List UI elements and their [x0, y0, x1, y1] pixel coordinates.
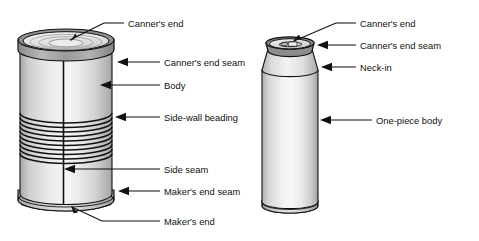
two-piece-beverage-can: Canner's end Canner's end seam Neck-in O… [262, 18, 443, 213]
label-makers-end-seam: Maker's end seam [164, 186, 240, 197]
label-side-seam: Side seam [164, 164, 208, 175]
leader-body-left [100, 81, 160, 89]
leader-canners-end-seam-right [317, 41, 356, 49]
label-canners-end-right: Canner's end [360, 18, 415, 29]
leader-one-piece-body [320, 116, 372, 124]
label-makers-end: Maker's end [164, 216, 215, 227]
leader-neck-in [321, 63, 356, 71]
label-canners-end-seam-right: Canner's end seam [360, 40, 441, 51]
label-side-wall-beading: Side-wall beading [164, 112, 238, 123]
can-anatomy-diagram: Canner's end Canner's end seam Body Side… [0, 0, 479, 241]
one-piece-body-shape [262, 70, 318, 209]
label-body-left: Body [164, 80, 186, 91]
label-canners-end-left: Canner's end [128, 18, 183, 29]
leader-side-wall-beading [115, 113, 160, 121]
label-one-piece-body: One-piece body [376, 115, 443, 126]
canners-end-shape-right [270, 39, 311, 49]
label-neck-in: Neck-in [360, 62, 392, 73]
label-canners-end-seam-left: Canner's end seam [164, 57, 245, 68]
canners-end-shape [23, 32, 109, 51]
pull-tab-icon [279, 42, 302, 47]
diagram-canvas: Canner's end Canner's end seam Body Side… [0, 0, 479, 241]
leader-canners-end-seam-left [117, 58, 160, 66]
three-piece-can: Canner's end Canner's end seam Body Side… [18, 18, 245, 227]
leader-makers-end-seam [118, 187, 160, 195]
